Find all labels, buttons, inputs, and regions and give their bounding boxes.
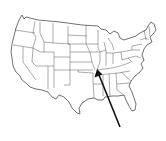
us-map-svg: [0, 0, 166, 141]
us-outline: [11, 15, 156, 114]
us-map: [0, 0, 166, 141]
